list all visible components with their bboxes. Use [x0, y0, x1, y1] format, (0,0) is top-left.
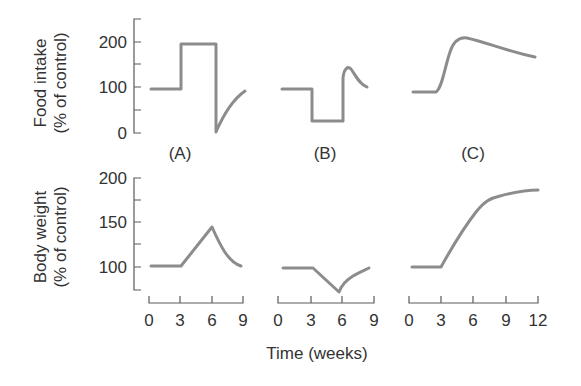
chart-figure: Food intake (% of control) Body weight (…: [0, 0, 581, 386]
x-tick-b-3: 3: [306, 311, 315, 330]
top-y-title-line2: (% of control): [51, 32, 70, 133]
body-weight-curve-c: [412, 190, 538, 267]
bottom-tick-200: 200: [99, 169, 127, 188]
x-tick-a-3: 3: [175, 311, 184, 330]
body-weight-curve-b: [283, 268, 369, 292]
x-axis-title: Time (weeks): [266, 344, 367, 363]
top-tick-200: 200: [99, 33, 127, 52]
bottom-y-axis-title: Body weight (% of control): [31, 186, 70, 287]
bottom-y-title-line1: Body weight: [31, 190, 50, 283]
food-intake-curve-a: [151, 44, 245, 132]
x-tick-c-12: 12: [529, 311, 548, 330]
panel-label-c: (C): [461, 144, 485, 163]
x-tick-b-6: 6: [337, 311, 346, 330]
bottom-y-axis: 200 150 100: [99, 169, 141, 290]
top-y-axis: 200 100 0: [99, 19, 141, 143]
x-tick-b-0: 0: [273, 311, 282, 330]
x-axis-c: 0 3 6 9 12: [404, 296, 547, 330]
x-tick-a-9: 9: [238, 311, 247, 330]
food-intake-curve-c: [413, 38, 535, 92]
x-tick-b-9: 9: [369, 311, 378, 330]
x-tick-c-3: 3: [436, 311, 445, 330]
x-tick-c-6: 6: [468, 311, 477, 330]
panel-label-a: (A): [169, 144, 192, 163]
x-tick-c-9: 9: [501, 311, 510, 330]
panel-label-b: (B): [314, 144, 337, 163]
x-axis-b: 0 3 6 9: [273, 296, 378, 330]
x-tick-c-0: 0: [404, 311, 413, 330]
body-weight-curve-a: [151, 227, 241, 266]
top-y-title-line1: Food intake: [31, 39, 50, 128]
x-tick-a-0: 0: [144, 311, 153, 330]
x-axis-a: 0 3 6 9: [144, 296, 247, 330]
bottom-tick-100: 100: [99, 258, 127, 277]
bottom-tick-150: 150: [99, 213, 127, 232]
x-tick-a-6: 6: [207, 311, 216, 330]
bottom-y-title-line2: (% of control): [51, 186, 70, 287]
top-tick-0: 0: [118, 124, 127, 143]
top-y-axis-title: Food intake (% of control): [31, 32, 70, 133]
top-tick-100: 100: [99, 78, 127, 97]
food-intake-curve-b: [282, 68, 367, 121]
